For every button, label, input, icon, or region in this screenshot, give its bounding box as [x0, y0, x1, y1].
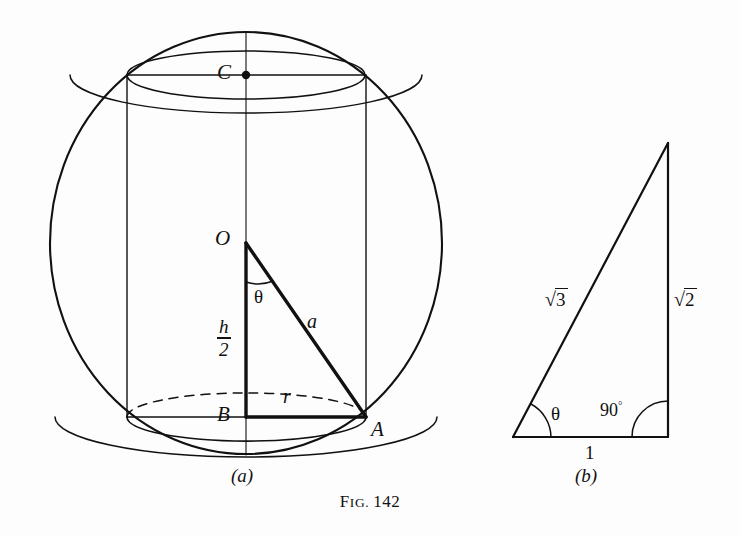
radical-sign: √ [674, 288, 685, 310]
fraction-denominator: 2 [217, 340, 231, 359]
angle-right-arc-b [632, 401, 668, 437]
label-angle-theta-b: θ [551, 404, 560, 423]
label-hypotenuse-b: √3 [545, 288, 568, 309]
point-marker-c [242, 71, 250, 79]
radical-sqrt3: √3 [545, 288, 568, 309]
label-point-o: O [215, 228, 230, 249]
caption-word-initial: F [340, 492, 350, 511]
fraction-h-over-2: h 2 [217, 317, 231, 359]
label-radius-r: r [283, 386, 291, 406]
label-angle-theta-a: θ [254, 287, 263, 306]
label-base-b: 1 [585, 443, 595, 462]
triangle-hypotenuse [246, 243, 366, 417]
triangle-b-hypotenuse [513, 143, 668, 437]
radical-radicand: 3 [555, 288, 569, 309]
figure-caption: FIG. 142 [0, 492, 740, 512]
label-point-c: C [217, 62, 231, 83]
angle-theta-arc-b [531, 404, 551, 437]
label-point-a: A [371, 419, 384, 440]
caption-word-rest: IG. [350, 495, 369, 510]
figure-drawing [0, 0, 740, 535]
fraction-numerator: h [217, 317, 231, 336]
degree-sign: ° [618, 399, 622, 411]
sub-caption-a: (a) [231, 466, 253, 485]
caption-number: 142 [373, 492, 400, 511]
angle-right-value: 90 [600, 400, 618, 420]
radical-radicand: 2 [684, 288, 698, 309]
label-point-b: B [217, 404, 230, 425]
radical-sqrt2: √2 [674, 288, 697, 309]
label-half-height: h 2 [217, 317, 231, 359]
radical-sign: √ [545, 288, 556, 310]
label-hypotenuse-a: a [307, 311, 317, 331]
sub-caption-b: (b) [575, 466, 597, 485]
caption-word: FIG. [340, 492, 369, 511]
label-vertical-b: √2 [674, 288, 697, 309]
label-angle-right-b: 90° [600, 400, 622, 419]
figure-page: C O B A θ a r h 2 (a) √3 √2 θ 90° 1 (b) … [0, 0, 740, 535]
angle-theta-arc-a [246, 281, 273, 284]
